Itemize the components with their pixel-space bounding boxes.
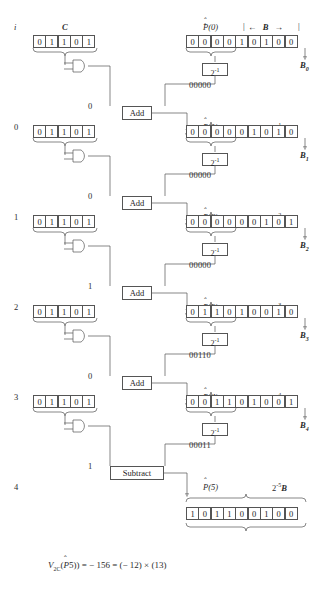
multiplicand-2-bit-3: 0 — [70, 215, 83, 228]
product-4-bit-3: 1 — [223, 395, 236, 408]
product-1-bit-6: 0 — [260, 125, 273, 138]
multiplicand-4-bit-4: 1 — [82, 395, 95, 408]
product-0-bit-1: 0 — [198, 35, 211, 48]
multiplicand-1-bit-0: 0 — [33, 125, 46, 138]
booth-multiplier-figure: i C ̂ˆP(0) ← B → | | 01101 000010100 2-1… — [0, 0, 316, 602]
shift-box-4: 2-1 — [202, 423, 228, 436]
row-index-1: 0 — [14, 122, 18, 132]
product-2-bit-0: 0 — [186, 215, 199, 228]
product-2-bit-4: 0 — [235, 215, 248, 228]
b-bit-label-4: B4 — [300, 420, 309, 432]
result-expression: (Pˆ5)) = − 156 = (− 12) × (13) — [61, 560, 167, 570]
product-3-bit-1: 1 — [198, 305, 211, 318]
product-1-bit-7: 1 — [272, 125, 285, 138]
multiplicand-register-4: 01101 — [33, 395, 95, 408]
multiplicand-register-0: 01101 — [33, 35, 95, 48]
multiplicand-1-bit-2: 1 — [58, 125, 71, 138]
product-5-bit-4: 0 — [235, 507, 248, 520]
product-0-bit-3: 0 — [223, 35, 236, 48]
multiplicand-3-bit-1: 1 — [45, 305, 58, 318]
product-3-bit-5: 0 — [248, 305, 261, 318]
product-4-bit-4: 0 — [235, 395, 248, 408]
product-3-bit-2: 1 — [211, 305, 224, 318]
product-2-bit-1: 0 — [198, 215, 211, 228]
b-label: B — [263, 22, 269, 32]
b-bit-label-1: B1 — [300, 150, 309, 162]
partial-product-label-0: ̂ˆP(0) — [203, 22, 218, 32]
product-0-bit-7: 0 — [272, 35, 285, 48]
b-bit-label-2: B2 — [300, 240, 309, 252]
add-box-0: Add — [122, 106, 152, 120]
result-equation: V2C(Pˆ5)) = − 156 = (− 12) × (13) — [48, 560, 166, 572]
product-1-bit-0: 0 — [186, 125, 199, 138]
b-arrow-right-icon: → — [274, 22, 283, 32]
product-3-bit-6: 0 — [260, 305, 273, 318]
product-4-bit-7: 0 — [272, 395, 285, 408]
multiplicand-0-bit-2: 1 — [58, 35, 71, 48]
product-1-bit-2: 0 — [211, 125, 224, 138]
row-index-header: i — [14, 22, 16, 32]
multiplicand-0-bit-0: 0 — [33, 35, 46, 48]
product-register-2: 000000101 — [186, 215, 298, 228]
multiplicand-4-bit-1: 1 — [45, 395, 58, 408]
product-5-bit-8: 0 — [285, 507, 298, 520]
multiplicand-4-bit-2: 1 — [58, 395, 71, 408]
b-bit-label-3: B3 — [300, 330, 309, 342]
product-4-bit-6: 0 — [260, 395, 273, 408]
product-0-bit-4: 1 — [235, 35, 248, 48]
product-1-bit-8: 0 — [285, 125, 298, 138]
product-2-bit-2: 0 — [211, 215, 224, 228]
row-index-2: 1 — [14, 212, 18, 222]
product-2-bit-8: 1 — [285, 215, 298, 228]
product-5-bit-5: 0 — [248, 507, 261, 520]
product-0-bit-5: 0 — [248, 35, 261, 48]
product-register-1: 000001010 — [186, 125, 298, 138]
multiplicand-0-bit-3: 0 — [70, 35, 83, 48]
multiplicand-1-bit-3: 0 — [70, 125, 83, 138]
shifted-bits-4: 00011 — [189, 440, 211, 450]
shifted-bits-1: 00000 — [189, 170, 211, 180]
multiplicand-3-bit-2: 1 — [58, 305, 71, 318]
multiplicand-register-3: 01101 — [33, 305, 95, 318]
product-0-bit-0: 0 — [186, 35, 199, 48]
product-5-bit-1: 0 — [198, 507, 211, 520]
shift-box-3: 2-1 — [202, 333, 228, 346]
product-5-bit-7: 0 — [272, 507, 285, 520]
shifted-bits-3: 00110 — [189, 350, 211, 360]
add-box-2: Add — [122, 286, 152, 300]
shifted-bits-2: 00000 — [189, 260, 211, 270]
weight-label-5: 2-5B — [272, 482, 287, 493]
multiplicand-2-bit-1: 1 — [45, 215, 58, 228]
product-4-bit-8: 1 — [285, 395, 298, 408]
product-4-bit-5: 1 — [248, 395, 261, 408]
product-0-bit-8: 0 — [285, 35, 298, 48]
product-register-3: 011010010 — [186, 305, 298, 318]
gate-output-4: 1 — [88, 461, 92, 471]
multiplicand-4-bit-3: 0 — [70, 395, 83, 408]
product-0-bit-2: 0 — [211, 35, 224, 48]
product-3-bit-7: 1 — [272, 305, 285, 318]
product-register-4: 001101001 — [186, 395, 298, 408]
product-4-bit-1: 0 — [198, 395, 211, 408]
shift-box-0: 2-1 — [202, 63, 228, 76]
product-1-bit-1: 0 — [198, 125, 211, 138]
gate-output-1: 0 — [88, 191, 92, 201]
multiplicand-2-bit-0: 0 — [33, 215, 46, 228]
product-5-bit-6: 1 — [260, 507, 273, 520]
shift-box-2: 2-1 — [202, 243, 228, 256]
multiplicand-1-bit-1: 1 — [45, 125, 58, 138]
product-register-5: 101100100 — [186, 507, 298, 520]
multiplicand-0-bit-4: 1 — [82, 35, 95, 48]
multiplicand-2-bit-2: 1 — [58, 215, 71, 228]
product-register-0: 000010100 — [186, 35, 298, 48]
b-arrow-left-icon: ← — [248, 22, 257, 32]
product-2-bit-5: 0 — [248, 215, 261, 228]
product-2-bit-7: 0 — [272, 215, 285, 228]
product-3-bit-8: 0 — [285, 305, 298, 318]
gate-output-3: 0 — [88, 371, 92, 381]
b-field-tick-left: | — [243, 21, 245, 31]
shifted-bits-0: 00000 — [189, 80, 211, 90]
multiplicand-3-bit-0: 0 — [33, 305, 46, 318]
product-3-bit-3: 0 — [223, 305, 236, 318]
row-index-5: 4 — [14, 482, 18, 492]
